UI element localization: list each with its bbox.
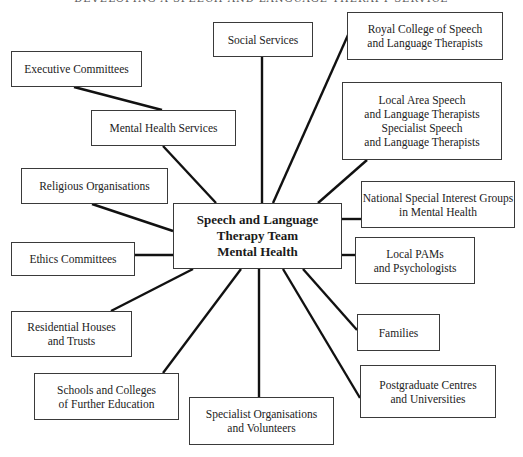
node-label: Specialist Organisations and Volunteers (206, 407, 317, 435)
node-label: Families (379, 326, 419, 340)
connector-schools-colleges (163, 269, 241, 373)
node-label: Local Area Speech and Language Therapist… (364, 93, 479, 149)
node-label: Ethics Committees (29, 252, 116, 266)
node-families: Families (357, 314, 440, 351)
center-node: Speech and Language Therapy Team Mental … (173, 203, 342, 269)
node-label: Social Services (228, 33, 299, 47)
node-label: Speech and Language Therapy Team Mental … (197, 212, 318, 260)
node-label: Schools and Colleges of Further Educatio… (57, 383, 156, 411)
node-local-pams: Local PAMs and Psychologists (355, 237, 475, 284)
node-residential-houses: Residential Houses and Trusts (11, 311, 132, 357)
connector-royal-college (273, 35, 348, 203)
connector-mental-health-services (163, 146, 216, 203)
node-specialist-organisations: Specialist Organisations and Volunteers (189, 397, 334, 445)
connector-families (303, 269, 357, 330)
node-ethics-committees: Ethics Committees (11, 242, 135, 276)
node-local-area-slt: Local Area Speech and Language Therapist… (342, 82, 502, 160)
connector-local-area-slt (318, 160, 367, 203)
node-national-sig: National Special Interest Groups in Ment… (361, 181, 515, 228)
node-royal-college: Royal College of Speech and Language The… (347, 12, 503, 60)
connector-executive-committees (74, 87, 162, 110)
node-label: Royal College of Speech and Language The… (367, 22, 482, 50)
node-label: Local PAMs and Psychologists (374, 247, 457, 275)
node-label: Executive Committees (24, 62, 128, 76)
node-postgraduate-centres: Postgraduate Centres and Universities (360, 365, 496, 418)
node-label: Mental Health Services (110, 121, 218, 135)
node-label: National Special Interest Groups in Ment… (363, 191, 513, 219)
node-executive-committees: Executive Committees (11, 51, 142, 87)
node-label: Residential Houses and Trusts (27, 320, 115, 348)
node-mental-health-services: Mental Health Services (91, 110, 236, 146)
node-social-services: Social Services (213, 22, 313, 57)
node-schools-colleges: Schools and Colleges of Further Educatio… (34, 373, 179, 420)
node-label: Postgraduate Centres and Universities (379, 378, 476, 406)
node-religious-organisations: Religious Organisations (21, 168, 168, 204)
connector-religious-organisations (92, 204, 173, 231)
node-label: Religious Organisations (39, 179, 150, 193)
